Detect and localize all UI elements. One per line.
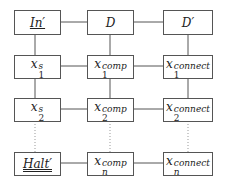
node-d-prime: D′ [163,10,213,35]
node-in-prime: In′ [14,10,61,35]
node-sub: 1 [102,71,127,79]
node-sub: n [102,168,127,176]
node-sup: s [39,62,45,70]
node-base: x [31,57,38,71]
node-base: x [166,154,173,168]
node-x1-connect: xconnect1 [163,55,213,79]
node-label: In′ [30,16,45,30]
node-xn-connect: xconnectn [163,152,213,176]
node-base: x [166,57,173,71]
node-halt-prime: Halt′ [14,152,61,176]
node-label: Halt′ [23,157,52,171]
node-base: x [94,100,101,114]
node-xn-comp: xcompn [87,152,134,176]
node-sup: connect [174,105,210,113]
node-base: x [31,100,38,114]
node-x1-s: xs1 [14,55,61,79]
node-x2-s: xs2 [14,98,61,122]
node-d: D [87,10,134,35]
node-sub: 2 [39,114,45,122]
node-sub: 2 [102,114,127,122]
node-sub: 1 [39,71,45,79]
node-x2-comp: xcomp2 [87,98,134,122]
node-base: x [94,154,101,168]
node-sub: 1 [174,71,210,79]
node-sub: 2 [174,114,210,122]
node-x1-comp: xcomp1 [87,55,134,79]
node-label: D [106,16,116,30]
node-base: x [94,57,101,71]
node-sup: connect [174,62,210,70]
node-sup: comp [102,105,127,113]
node-sup: comp [102,62,127,70]
node-label: D′ [182,16,194,30]
node-sup: connect [174,159,210,167]
node-sub: n [174,168,210,176]
node-base: x [166,100,173,114]
node-sup: s [39,105,45,113]
node-x2-connect: xconnect2 [163,98,213,122]
node-sup: comp [102,159,127,167]
